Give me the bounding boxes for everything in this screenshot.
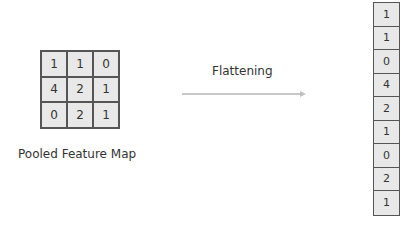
vector-cell: 0 bbox=[374, 144, 399, 168]
vector-cell: 2 bbox=[374, 97, 399, 121]
vector-cell: 2 bbox=[374, 168, 399, 192]
vector-cell: 0 bbox=[374, 50, 399, 74]
flattened-vector: 1 1 0 4 2 1 0 2 1 bbox=[373, 2, 400, 216]
grid-cell: 1 bbox=[41, 51, 67, 77]
vector-cell: 4 bbox=[374, 74, 399, 98]
pooled-feature-map-grid: 1 1 0 4 2 1 0 2 1 bbox=[40, 50, 120, 129]
grid-cell: 2 bbox=[67, 77, 93, 103]
grid-cell: 1 bbox=[93, 77, 119, 103]
flattening-label: Flattening bbox=[212, 64, 273, 78]
pooled-feature-map-label: Pooled Feature Map bbox=[18, 147, 136, 161]
vector-cell: 1 bbox=[374, 191, 399, 215]
grid-cell: 1 bbox=[67, 51, 93, 77]
grid-cell: 2 bbox=[67, 102, 93, 128]
grid-cell: 0 bbox=[93, 51, 119, 77]
grid-cell: 1 bbox=[93, 102, 119, 128]
vector-cell: 1 bbox=[374, 121, 399, 145]
vector-cell: 1 bbox=[374, 3, 399, 27]
grid-cell: 4 bbox=[41, 77, 67, 103]
vector-cell: 1 bbox=[374, 27, 399, 51]
arrow-right-icon bbox=[182, 93, 302, 95]
arrowhead-icon bbox=[300, 91, 306, 97]
grid-cell: 0 bbox=[41, 102, 67, 128]
